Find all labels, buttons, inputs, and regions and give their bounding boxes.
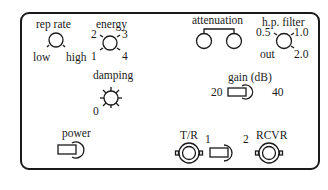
energy-pos-2: 2 — [91, 28, 97, 40]
attenuation-knob-coarse[interactable] — [197, 34, 212, 49]
energy-pos-1: 1 — [91, 50, 97, 62]
attenuation-label: attenuation — [192, 14, 243, 26]
gain-20-label: 20 — [211, 86, 223, 98]
gain-label: gain (dB) — [228, 71, 272, 83]
gain-40-label: 40 — [272, 86, 284, 98]
energy-knob[interactable] — [97, 32, 123, 54]
damping-knob[interactable] — [96, 83, 126, 113]
hp-filter-pos-0-5: 0.5 — [256, 26, 270, 38]
rep-rate-label: rep rate — [36, 18, 71, 30]
hp-filter-pos-out: out — [260, 48, 275, 60]
energy-pos-4: 4 — [122, 50, 128, 62]
rcvr-bnc-connector[interactable] — [253, 140, 285, 166]
rep-rate-high-label: high — [66, 51, 86, 63]
selector-2-label: 2 — [243, 133, 249, 145]
gain-toggle-switch[interactable] — [226, 83, 260, 101]
attenuation-knob-fine[interactable] — [227, 34, 242, 49]
power-toggle-switch[interactable] — [56, 140, 90, 160]
damping-zero-label: 0 — [93, 105, 99, 117]
hp-filter-pos-1-0: 1.0 — [294, 26, 308, 38]
channel-selector-switch[interactable] — [208, 142, 242, 164]
tr-bnc-connector[interactable] — [173, 140, 205, 166]
power-label: power — [62, 127, 91, 139]
energy-pos-3: 3 — [122, 28, 128, 40]
rep-rate-knob[interactable] — [44, 30, 68, 50]
rep-rate-low-label: low — [33, 51, 50, 63]
hp-filter-pos-2-0: 2.0 — [294, 48, 308, 60]
damping-label: damping — [93, 69, 133, 81]
attenuation-knobs — [190, 26, 248, 50]
